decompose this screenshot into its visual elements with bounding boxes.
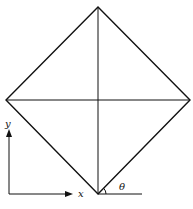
x-axis-arrow-icon bbox=[65, 191, 73, 197]
angle-arc bbox=[104, 188, 106, 194]
angle-label: θ bbox=[119, 181, 125, 192]
x-axis-label: x bbox=[78, 188, 84, 199]
y-axis-arrow-icon bbox=[6, 129, 12, 137]
y-axis-label: y bbox=[4, 118, 11, 129]
diagram-canvas: y x θ bbox=[0, 0, 193, 209]
